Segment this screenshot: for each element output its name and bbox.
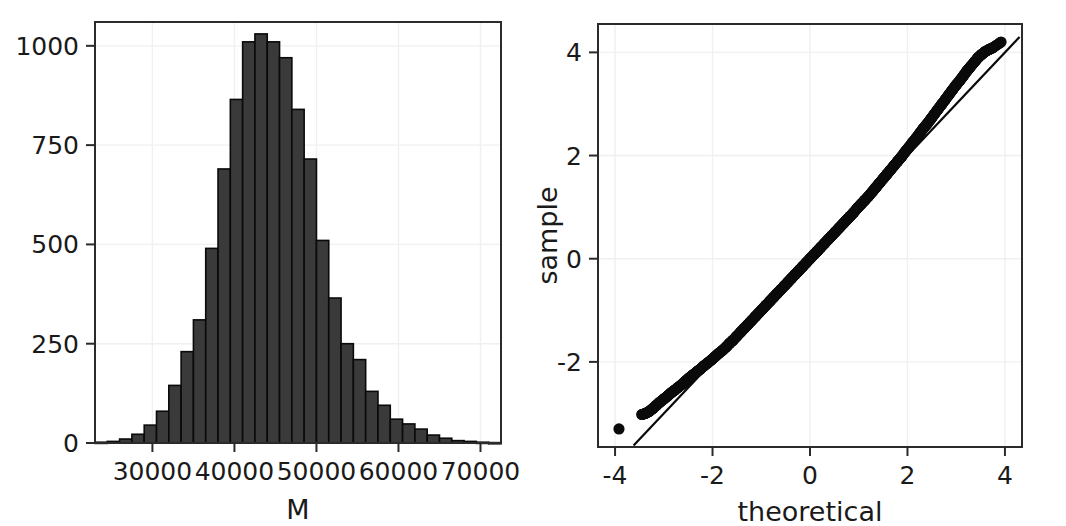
histogram-bar: [304, 159, 316, 443]
x-tick-label: 50000: [277, 457, 357, 486]
y-tick-label: -2: [557, 348, 582, 377]
histogram-bar: [193, 320, 205, 443]
y-tick-label: 0: [63, 429, 79, 458]
histogram-bar: [353, 360, 365, 443]
histogram-bar: [378, 405, 390, 443]
y-tick-label: 250: [31, 330, 79, 359]
y-tick-label: 750: [31, 131, 79, 160]
x-tick-label: -4: [603, 461, 628, 490]
histogram-bar: [132, 434, 144, 443]
histogram-bar: [157, 411, 169, 443]
histogram-bar: [403, 424, 415, 443]
histogram-bar: [169, 385, 181, 443]
histogram-panel: 025050075010003000040000500006000070000M: [0, 0, 533, 526]
histogram-bar: [427, 435, 439, 443]
histogram-x-axis-title: M: [286, 494, 309, 525]
histogram-bar: [292, 109, 304, 443]
histogram-bar: [144, 425, 156, 443]
figure-root: 025050075010003000040000500006000070000M…: [0, 0, 1066, 526]
histogram-bar: [206, 248, 218, 443]
histogram-bar: [218, 169, 230, 443]
y-tick-label: 4: [566, 38, 582, 67]
qq-x-axis-title: theoretical: [738, 496, 883, 526]
qq-data-point: [613, 423, 624, 434]
y-tick-label: 2: [566, 142, 582, 171]
x-tick-label: 40000: [195, 457, 275, 486]
x-tick-label: 2: [900, 461, 916, 490]
x-tick-label: -2: [700, 461, 725, 490]
histogram-bar: [243, 42, 255, 443]
histogram-bar: [329, 298, 341, 443]
y-tick-label: 1000: [15, 32, 79, 61]
histogram-bar: [267, 42, 279, 443]
histogram-bar: [316, 240, 328, 443]
x-tick-label: 30000: [113, 457, 193, 486]
histogram-bar: [230, 99, 242, 443]
qq-plot: -2024-4-2024theoreticalsample: [533, 0, 1066, 526]
qq-data-point: [995, 36, 1006, 47]
qq-reference-line: [634, 37, 1020, 446]
qq-plot-panel: -2024-4-2024theoreticalsample: [533, 0, 1066, 526]
histogram-bar: [181, 352, 193, 443]
histogram-bar: [255, 34, 267, 443]
histogram-bar: [366, 391, 378, 443]
histogram-plot: 025050075010003000040000500006000070000M: [0, 0, 533, 526]
histogram-bar: [415, 429, 427, 443]
y-tick-label: 0: [566, 245, 582, 274]
y-tick-label: 500: [31, 230, 79, 259]
histogram-bars: [95, 34, 501, 444]
histogram-bar: [390, 419, 402, 443]
x-tick-label: 0: [802, 461, 818, 490]
x-tick-label: 70000: [441, 457, 521, 486]
histogram-bar: [280, 58, 292, 443]
qq-y-axis-title: sample: [533, 186, 563, 284]
x-tick-label: 4: [997, 461, 1013, 490]
x-tick-label: 60000: [359, 457, 439, 486]
histogram-bar: [341, 344, 353, 443]
